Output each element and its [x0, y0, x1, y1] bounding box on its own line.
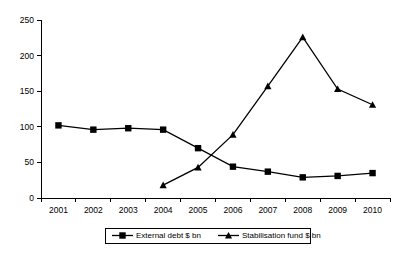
data-point-marker: [195, 145, 201, 151]
data-point-marker: [125, 125, 131, 131]
y-tick-label: 250: [20, 15, 34, 25]
x-tick-label: 2009: [328, 205, 347, 215]
x-tick-label: 2006: [223, 205, 242, 215]
legend-label-external-debt: External debt $ bn: [136, 231, 201, 240]
y-tick-label: 0: [29, 193, 34, 203]
data-point-marker: [334, 173, 340, 179]
line-chart: 050100150200250 200120022003200420052006…: [0, 0, 406, 258]
y-tick-label: 50: [25, 157, 35, 167]
x-tick-label: 2001: [49, 205, 68, 215]
data-point-marker: [55, 122, 61, 128]
legend-marker-square-icon: [119, 232, 125, 238]
chart-legend: External debt $ bnStabilisation fund $ b…: [105, 228, 321, 243]
x-tick-label: 2007: [258, 205, 277, 215]
data-point-marker: [369, 170, 375, 176]
x-tick-label: 2010: [363, 205, 382, 215]
x-tick-label: 2005: [189, 205, 208, 215]
data-point-marker: [90, 126, 96, 132]
y-tick-label: 150: [20, 86, 34, 96]
x-tick-label: 2003: [119, 205, 138, 215]
chart-canvas: 050100150200250 200120022003200420052006…: [0, 0, 406, 258]
chart-background: [0, 0, 406, 258]
legend-label-stabilisation-fund: Stabilisation fund $ bn: [242, 231, 321, 240]
data-point-marker: [230, 163, 236, 169]
y-tick-label: 200: [20, 51, 34, 61]
x-tick-label: 2004: [154, 205, 173, 215]
data-point-marker: [265, 168, 271, 174]
x-tick-label: 2002: [84, 205, 103, 215]
data-point-marker: [300, 174, 306, 180]
x-tick-label: 2008: [293, 205, 312, 215]
data-point-marker: [160, 126, 166, 132]
y-tick-label: 100: [20, 122, 34, 132]
